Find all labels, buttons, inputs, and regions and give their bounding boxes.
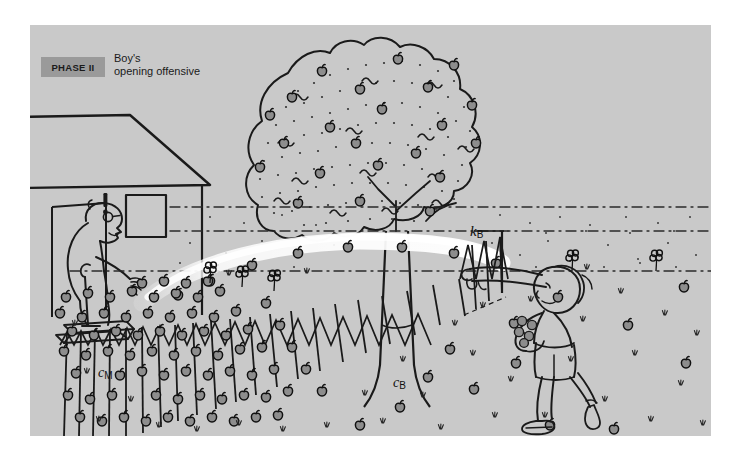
phase-badge: PHASE II — [41, 57, 105, 77]
label-concentration-boy: cB — [393, 375, 406, 391]
page-root: PHASE II Boy's opening offensive cM cB k… — [0, 0, 742, 461]
phase-caption-line-2: opening offensive — [114, 65, 264, 78]
phase-badge-label: PHASE II — [51, 62, 94, 73]
phase-caption: Boy's opening offensive — [114, 52, 264, 78]
label-cm-subscript: M — [104, 370, 112, 381]
label-kb-subscript: B — [477, 229, 484, 240]
scene-artwork — [30, 25, 711, 436]
phase-caption-line-1: Boy's — [114, 52, 264, 65]
label-kb-symbol: k — [470, 223, 477, 239]
label-cb-subscript: B — [399, 380, 406, 391]
label-concentration-man: cM — [98, 365, 113, 381]
illustration-figure: PHASE II Boy's opening offensive cM cB k… — [30, 25, 711, 436]
label-rate-constant-boy: kB — [470, 223, 483, 240]
